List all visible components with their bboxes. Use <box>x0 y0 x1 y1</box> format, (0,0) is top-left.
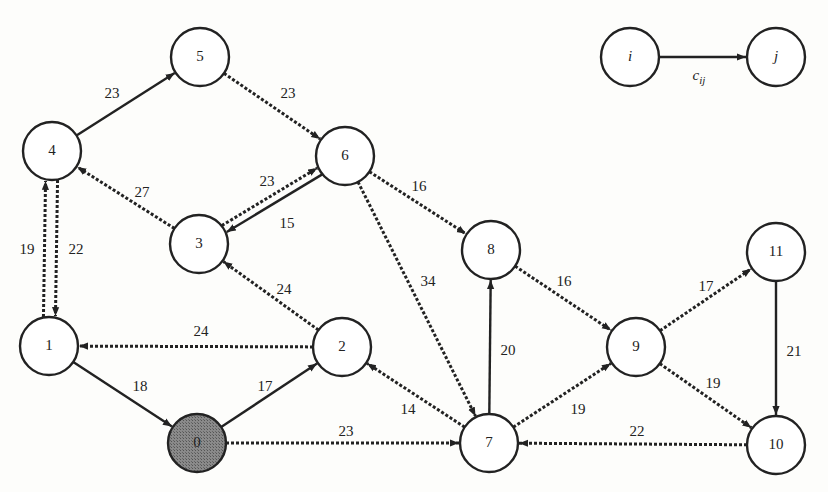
edges-layer: 2323272315163419222424181714232016191719… <box>20 73 802 445</box>
edge-5-to-6 <box>224 73 320 139</box>
edge-cost-label: 23 <box>105 85 120 101</box>
node-label: 10 <box>769 436 784 452</box>
node-5: 5 <box>171 28 229 86</box>
edge-6-to-7 <box>358 182 476 416</box>
legend-node-i-label: i <box>628 48 632 64</box>
node-3: 3 <box>170 215 228 273</box>
graph-diagram: 2323272315163419222424181714232016191719… <box>0 0 828 492</box>
edge-0-to-2 <box>221 364 317 427</box>
edge-cost-label: 24 <box>194 323 210 339</box>
edge-cost-label: 20 <box>501 342 516 358</box>
edge-7-to-9 <box>513 363 611 427</box>
edge-1-to-4 <box>43 181 45 317</box>
node-7: 7 <box>460 414 518 472</box>
edge-4-to-1 <box>55 180 57 316</box>
edge-9-to-10 <box>660 364 752 428</box>
node-label: 1 <box>45 337 53 353</box>
node-1: 1 <box>20 317 78 375</box>
edge-cost-label: 23 <box>339 423 354 439</box>
edge-cost-label: 23 <box>260 173 275 189</box>
node-9: 9 <box>607 318 665 376</box>
edge-4-to-5 <box>76 73 174 135</box>
node-label: 4 <box>48 142 56 158</box>
edge-cost-label: 18 <box>133 378 148 394</box>
node-label: 9 <box>632 338 640 354</box>
node-label: 0 <box>193 434 201 450</box>
node-6: 6 <box>316 127 374 185</box>
edge-cost-label: 22 <box>630 423 645 439</box>
edge-cost-label: 15 <box>280 215 295 231</box>
legend-cost-label: cij <box>693 67 706 85</box>
node-0: 0 <box>168 414 226 472</box>
node-label: 5 <box>196 48 204 64</box>
edge-3-to-4 <box>77 167 174 228</box>
node-2: 2 <box>313 318 371 376</box>
edge-cost-label: 16 <box>412 178 428 194</box>
edge-cost-label: 23 <box>281 85 296 101</box>
node-4: 4 <box>23 122 81 180</box>
node-label: 2 <box>338 338 346 354</box>
edge-cost-label: 17 <box>258 378 274 394</box>
node-label: 7 <box>485 434 493 450</box>
edge-cost-label: 19 <box>20 241 35 257</box>
edge-10-to-7 <box>519 443 747 445</box>
edge-cost-label: 17 <box>699 278 715 294</box>
graph-canvas: 2323272315163419222424181714232016191719… <box>0 0 828 492</box>
edge-cost-label: 27 <box>135 184 151 200</box>
node-10: 10 <box>747 416 805 474</box>
node-11: 11 <box>747 223 805 281</box>
edge-cost-label: 24 <box>277 281 293 297</box>
edge-cost-label: 19 <box>706 375 721 391</box>
edge-cost-label: 34 <box>421 273 437 289</box>
edge-2-to-1 <box>79 346 313 347</box>
edge-cost-label: 22 <box>69 241 84 257</box>
legend: ijcij <box>601 28 805 86</box>
edge-7-to-2 <box>367 363 465 427</box>
edge-cost-label: 16 <box>557 273 573 289</box>
edge-1-to-0 <box>73 362 172 427</box>
node-label: 11 <box>769 243 783 259</box>
node-8: 8 <box>462 221 520 279</box>
edge-cost-label: 21 <box>787 343 802 359</box>
node-label: 6 <box>341 147 349 163</box>
node-label: 8 <box>487 241 495 257</box>
edge-cost-label: 14 <box>401 401 417 417</box>
edge-2-to-3 <box>223 262 318 331</box>
node-label: 3 <box>195 235 203 251</box>
edge-7-to-8 <box>489 280 490 414</box>
edge-cost-label: 19 <box>571 401 586 417</box>
